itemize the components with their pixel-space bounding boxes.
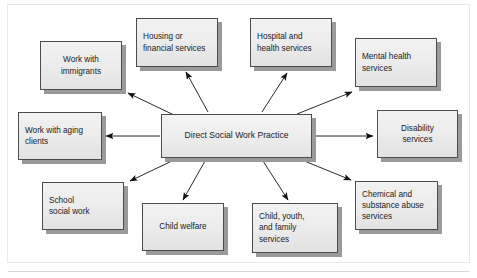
node-child-youth-and-family-services-line-0: Child, youth, bbox=[259, 211, 305, 222]
node-chemical-and-substance-abuse-services-line-1: substance abuse bbox=[362, 200, 424, 211]
node-child-youth-and-family-services-line-1: and family bbox=[259, 222, 296, 233]
node-child-welfare[interactable]: Child welfare bbox=[142, 203, 224, 251]
arrow-to-hospital-and-health-services bbox=[262, 73, 287, 112]
node-chemical-and-substance-abuse-services-line-0: Chemical and bbox=[362, 189, 412, 200]
node-housing-or-financial-services-line-1: financial services bbox=[143, 43, 205, 54]
node-work-with-immigrants-line-0: Work with bbox=[63, 54, 99, 65]
arrow-to-child-youth-and-family-services bbox=[263, 161, 288, 200]
node-mental-health-services[interactable]: Mental health services bbox=[355, 38, 437, 87]
arrow-to-housing-or-financial-services bbox=[186, 72, 208, 112]
node-housing-or-financial-services[interactable]: Housing or financial services bbox=[136, 18, 218, 67]
figure-canvas: Direct Social Work Practice Work with im… bbox=[0, 0, 477, 278]
node-school-social-work-line-1: social work bbox=[49, 206, 90, 217]
node-school-social-work[interactable]: School social work bbox=[42, 182, 124, 230]
node-work-with-aging-clients[interactable]: Work with aging clients bbox=[18, 112, 102, 160]
node-disability-services[interactable]: Disability services bbox=[377, 110, 458, 158]
node-school-social-work-line-0: School bbox=[49, 195, 74, 206]
node-work-with-aging-clients-line-0: Work with aging bbox=[25, 125, 83, 136]
arrow-to-chemical-and-substance-abuse-services bbox=[297, 158, 351, 180]
bottom-rule bbox=[8, 271, 469, 272]
arrow-to-child-welfare bbox=[183, 161, 205, 200]
node-child-welfare-line-0: Child welfare bbox=[159, 221, 206, 232]
node-center[interactable]: Direct Social Work Practice bbox=[161, 114, 312, 158]
arrow-to-work-with-immigrants bbox=[128, 93, 176, 116]
node-mental-health-services-line-0: Mental health bbox=[362, 51, 411, 62]
node-work-with-aging-clients-line-1: clients bbox=[25, 136, 48, 147]
node-child-youth-and-family-services-line-2: services bbox=[259, 234, 289, 245]
arrow-to-mental-health-services bbox=[297, 92, 352, 114]
node-center-line-0: Direct Social Work Practice bbox=[185, 130, 289, 141]
node-disability-services-line-1: services bbox=[402, 134, 432, 145]
node-chemical-and-substance-abuse-services-line-2: services bbox=[362, 211, 392, 222]
node-disability-services-line-0: Disability bbox=[401, 123, 434, 134]
node-work-with-immigrants-line-1: immigrants bbox=[61, 66, 101, 77]
node-work-with-immigrants[interactable]: Work with immigrants bbox=[40, 41, 122, 90]
arrow-to-school-social-work bbox=[130, 159, 176, 181]
node-chemical-and-substance-abuse-services[interactable]: Chemical and substance abuse services bbox=[355, 181, 438, 230]
node-hospital-and-health-services-line-0: Hospital and bbox=[257, 31, 303, 42]
node-hospital-and-health-services[interactable]: Hospital and health services bbox=[250, 18, 332, 67]
node-child-youth-and-family-services[interactable]: Child, youth, and family services bbox=[252, 203, 338, 253]
node-mental-health-services-line-1: services bbox=[362, 63, 392, 74]
node-housing-or-financial-services-line-0: Housing or bbox=[143, 31, 183, 42]
node-hospital-and-health-services-line-1: health services bbox=[257, 43, 312, 54]
